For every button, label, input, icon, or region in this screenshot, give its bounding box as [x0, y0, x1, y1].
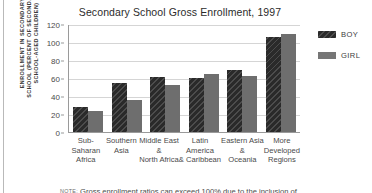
footnote-text: Gross enrollment ratios can exceed 100% … [80, 187, 297, 193]
bar-group [108, 25, 147, 132]
x-category-label-line: Eastern Asia [221, 136, 264, 146]
x-category-label: Sub-SaharanAfrica [68, 136, 104, 176]
y-tick-label-0: 0 [56, 129, 60, 138]
legend-item-girl[interactable]: GIRL [318, 51, 360, 60]
x-category-label-line: America [179, 146, 221, 156]
bar-group [146, 25, 185, 132]
x-category-label-line: Developed [264, 146, 300, 156]
y-tick-mark-80 [61, 61, 64, 62]
y-tick-mark-120 [61, 25, 64, 26]
bar-group [223, 25, 262, 132]
bar-girl [281, 34, 296, 132]
x-category-label-line: Oceania [221, 155, 264, 165]
x-category-label-line: More [264, 136, 300, 146]
y-tick-label-100: 100 [47, 39, 60, 48]
y-axis-title-line-1: ENROLLMENT IN SECONDARY [19, 0, 25, 88]
x-category-label-line: Saharan [68, 146, 104, 156]
y-tick-label-60: 60 [51, 75, 60, 84]
y-axis-tick-labels: 020406080100120 [38, 25, 64, 133]
x-category-label-line: Asia [104, 146, 140, 156]
y-tick-mark-20 [61, 115, 64, 116]
bar-group [69, 25, 108, 132]
bar-boy [73, 107, 88, 132]
bar-girl [204, 74, 219, 133]
bar-boy [150, 77, 165, 132]
y-tick-mark-60 [61, 79, 64, 80]
footnote-tag: NOTE: [60, 188, 78, 193]
bar-boy [189, 78, 204, 132]
bar-girl [88, 111, 103, 132]
x-category-label-line: & [221, 146, 264, 156]
legend: BOYGIRL [318, 30, 360, 60]
legend-label: BOY [341, 30, 358, 39]
bar-girl [242, 76, 257, 132]
gridline-0 [69, 133, 300, 134]
x-category-label: LatinAmerica& Caribbean [179, 136, 221, 176]
plot-area [68, 25, 300, 133]
x-category-label-line: & Caribbean [179, 155, 221, 165]
bar-boy [266, 37, 281, 132]
x-category-label-line: Regions [264, 155, 300, 165]
x-category-label-line: & [139, 146, 179, 156]
y-tick-label-40: 40 [51, 93, 60, 102]
x-category-label: MoreDevelopedRegions [264, 136, 300, 176]
legend-item-boy[interactable]: BOY [318, 30, 360, 39]
chart-title: Secondary School Gross Enrollment, 1997 [60, 6, 300, 18]
bar-girl [165, 85, 180, 132]
y-tick-label-80: 80 [51, 57, 60, 66]
y-axis-title-line-2: SCHOOL (PERCENT OF SECONDARY [26, 0, 32, 98]
y-tick-label-20: 20 [51, 111, 60, 120]
legend-label: GIRL [341, 51, 360, 60]
bar-group [185, 25, 224, 132]
y-tick-mark-0 [61, 133, 64, 134]
bar-group [262, 25, 301, 132]
x-category-label: SouthernAsia [104, 136, 140, 176]
x-category-label-line: Southern [104, 136, 140, 146]
legend-swatch-icon [318, 31, 336, 38]
footnote: NOTE:Gross enrollment ratios can exceed … [60, 180, 360, 193]
y-tick-mark-40 [61, 97, 64, 98]
x-axis-category-labels: Sub-SaharanAfricaSouthernAsiaMiddle East… [68, 136, 300, 176]
x-category-label: Eastern Asia&Oceania [221, 136, 264, 176]
page-edge-rule [3, 0, 4, 193]
y-tick-label-120: 120 [47, 21, 60, 30]
legend-swatch-icon [318, 52, 336, 59]
x-category-label-line: Africa [68, 155, 104, 165]
bar-girl [127, 100, 142, 132]
y-tick-mark-100 [61, 43, 64, 44]
bar-groups [69, 25, 300, 132]
x-category-label-line: North Africa [139, 155, 179, 165]
bar-boy [227, 70, 242, 132]
x-category-label-line: Sub- [68, 136, 104, 146]
x-category-label: Middle East&North Africa [139, 136, 179, 176]
x-category-label-line: Latin [179, 136, 221, 146]
chart-figure: Secondary School Gross Enrollment, 1997 … [0, 0, 372, 193]
bar-boy [112, 83, 127, 132]
x-category-label-line: Middle East [139, 136, 179, 146]
